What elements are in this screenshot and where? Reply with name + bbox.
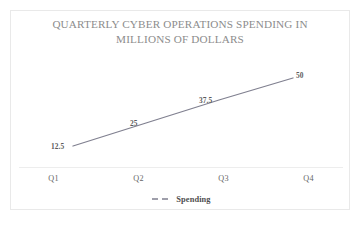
x-tick-label-q4: Q4: [266, 171, 351, 187]
legend-dashed-line-icon: [151, 195, 173, 203]
data-label-q2: 25: [130, 119, 138, 128]
x-tick-label-q2: Q2: [96, 171, 181, 187]
series-line-spending: [73, 78, 293, 146]
data-label-q4: 50: [296, 71, 304, 80]
x-tick-label-q3: Q3: [181, 171, 266, 187]
legend-entry-spending: Spending: [151, 195, 210, 204]
data-label-q1: 12.5: [51, 142, 64, 151]
chart-container: QUARTERLY CYBER OPERATIONS SPENDING INMI…: [10, 10, 350, 210]
x-tick-label-q1: Q1: [11, 171, 96, 187]
x-axis-labels: Q1 Q2 Q3 Q4: [11, 171, 351, 187]
data-label-q3: 37.5: [199, 96, 212, 105]
chart-legend: Spending: [11, 191, 351, 207]
legend-label-spending: Spending: [176, 195, 210, 204]
